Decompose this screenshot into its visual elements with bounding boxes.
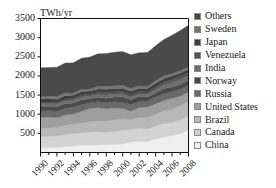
legend-item-label: Sweden <box>205 24 236 34</box>
legend-item-russia[interactable]: Russia <box>194 87 276 100</box>
chart-legend: OthersSwedenJapanVenezuelaIndiaNorwayRus… <box>194 10 276 152</box>
y-tick-label: 2500 <box>3 51 35 61</box>
legend-item-label: India <box>205 63 225 73</box>
legend-item-label: Norway <box>205 76 237 86</box>
legend-item-others[interactable]: Others <box>194 10 276 23</box>
y-tick-label: 1000 <box>3 109 35 119</box>
legend-item-label: Japan <box>205 37 228 47</box>
y-tick-label: 500 <box>3 128 35 138</box>
y-tick-label: 2000 <box>3 70 35 80</box>
legend-swatch-icon <box>194 52 201 59</box>
legend-swatch-icon <box>194 39 201 46</box>
y-tick-label: 1500 <box>3 90 35 100</box>
y-tick-label: 3000 <box>3 32 35 42</box>
legend-item-label: United States <box>205 102 258 112</box>
y-tick-label: 3500 <box>3 13 35 23</box>
legend-swatch-icon <box>194 13 201 20</box>
area-series-group <box>41 25 189 152</box>
legend-item-india[interactable]: India <box>194 62 276 75</box>
legend-item-canada[interactable]: Canada <box>194 126 276 139</box>
legend-item-china[interactable]: China <box>194 139 276 152</box>
legend-item-label: Brazil <box>205 115 229 125</box>
legend-swatch-icon <box>194 116 201 123</box>
legend-item-label: Russia <box>205 89 231 99</box>
legend-item-norway[interactable]: Norway <box>194 74 276 87</box>
legend-item-venezuela[interactable]: Venezuela <box>194 49 276 62</box>
legend-swatch-icon <box>194 129 201 136</box>
legend-item-label: Venezuela <box>205 50 246 60</box>
legend-swatch-icon <box>194 103 201 110</box>
legend-item-label: China <box>205 140 229 150</box>
legend-swatch-icon <box>194 26 201 33</box>
legend-item-label: Others <box>205 11 231 21</box>
legend-swatch-icon <box>194 77 201 84</box>
y-axis-unit-label: TWh/yr <box>40 7 72 18</box>
legend-item-sweden[interactable]: Sweden <box>194 23 276 36</box>
legend-swatch-icon <box>194 65 201 72</box>
legend-swatch-icon <box>194 90 201 97</box>
legend-item-label: Canada <box>205 127 235 137</box>
legend-item-japan[interactable]: Japan <box>194 36 276 49</box>
legend-item-united-states[interactable]: United States <box>194 100 276 113</box>
legend-item-brazil[interactable]: Brazil <box>194 113 276 126</box>
legend-swatch-icon <box>194 142 201 149</box>
chart-figure: TWh/yr 350030002500200015001000500 19901… <box>0 0 276 188</box>
